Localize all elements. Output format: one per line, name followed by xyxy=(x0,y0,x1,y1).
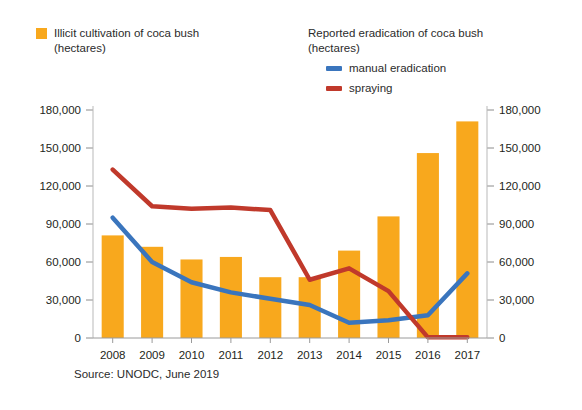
y-tick-label-left: 90,000 xyxy=(46,218,81,230)
plot-area: 030,00060,00090,000120,000150,000180,000… xyxy=(0,0,582,410)
y-tick-label-right: 60,000 xyxy=(499,256,534,268)
y-tick-label-left: 60,000 xyxy=(46,256,81,268)
x-tick-label-2010: 2010 xyxy=(179,349,205,361)
y-tick-label-right: 30,000 xyxy=(499,294,534,306)
bar-2008 xyxy=(102,235,124,338)
x-tick-label-2014: 2014 xyxy=(336,349,362,361)
x-axis: 2008200920102011201220132014201520162017 xyxy=(100,338,480,361)
bar-series xyxy=(102,121,479,338)
bar-2017 xyxy=(456,121,478,338)
line-manual-eradication xyxy=(113,218,468,323)
x-tick-label-2011: 2011 xyxy=(219,349,244,361)
bar-2010 xyxy=(180,259,202,338)
x-tick-label-2016: 2016 xyxy=(415,349,441,361)
bar-2012 xyxy=(259,277,281,338)
x-tick-label-2013: 2013 xyxy=(297,349,323,361)
y-tick-label-left: 30,000 xyxy=(46,294,81,306)
y-tick-label-right: 180,000 xyxy=(499,104,541,116)
y-tick-label-left: 180,000 xyxy=(39,104,81,116)
y-axis-left: 030,00060,00090,000120,000150,000180,000 xyxy=(39,104,93,344)
y-tick-label-left: 0 xyxy=(75,332,81,344)
chart-figure: Illicit cultivation of coca bush (hectar… xyxy=(0,0,582,410)
y-tick-label-right: 150,000 xyxy=(499,142,541,154)
y-tick-label-right: 120,000 xyxy=(499,180,541,192)
y-tick-label-right: 0 xyxy=(499,332,505,344)
bar-2011 xyxy=(220,257,242,338)
y-tick-label-right: 90,000 xyxy=(499,218,534,230)
y-axis-right: 030,00060,00090,000120,000150,000180,000 xyxy=(487,104,541,344)
x-tick-label-2017: 2017 xyxy=(455,349,481,361)
chart-canvas: 030,00060,00090,000120,000150,000180,000… xyxy=(0,0,582,410)
y-tick-label-left: 120,000 xyxy=(39,180,81,192)
source-note: Source: UNODC, June 2019 xyxy=(74,368,219,380)
line-series xyxy=(113,170,468,338)
x-tick-label-2009: 2009 xyxy=(139,349,165,361)
x-tick-label-2008: 2008 xyxy=(100,349,126,361)
x-tick-label-2012: 2012 xyxy=(258,349,284,361)
y-tick-label-left: 150,000 xyxy=(39,142,81,154)
line-spraying xyxy=(113,170,468,338)
x-tick-label-2015: 2015 xyxy=(376,349,402,361)
